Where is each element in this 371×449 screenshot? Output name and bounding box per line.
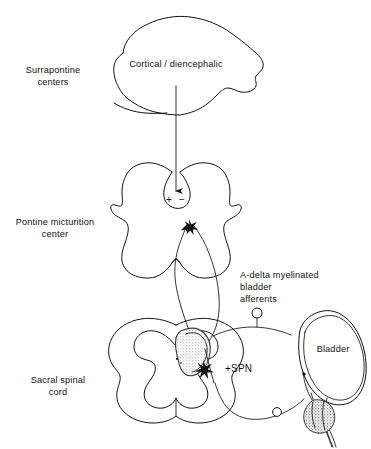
brain-group: Cortical / diencephalic [114, 16, 263, 115]
pons-outline-left [111, 163, 176, 278]
sacral-cord-group: +SPN [109, 318, 253, 423]
afferent-fiber-upper [213, 327, 291, 336]
efferent-ganglion-soma [273, 408, 282, 417]
urethral-sphincter-shaded [304, 400, 335, 433]
micturition-pathway-diagram: Cortical / diencephalic + − [0, 0, 371, 449]
horn-dot-2 [180, 362, 182, 364]
pontine-star-marker [182, 219, 198, 235]
efferent-fiber-lower [215, 383, 304, 419]
afferents-label-line1: A-delta myelinated [240, 270, 319, 280]
pontine-label-line2: center [42, 229, 68, 239]
afferent-ganglion-soma [252, 308, 262, 318]
bladder-group: Bladder [299, 311, 366, 447]
suprapontine-label-line1: Surrapontine [26, 65, 80, 75]
inhibitory-symbol: − [179, 194, 185, 205]
sacral-label-line2: cord [49, 387, 67, 397]
side-label-sacral: Sacral spinal cord [31, 375, 86, 397]
excitatory-symbol: + [166, 194, 172, 205]
afferents-label-line2: bladder [240, 282, 272, 292]
sacral-label-line1: Sacral spinal [31, 375, 86, 385]
diagram-canvas: Cortical / diencephalic + − [0, 0, 371, 449]
brain-inner-fold [114, 103, 167, 113]
horn-dot-1 [176, 358, 178, 360]
afferents-label-line3: afferents [240, 294, 277, 304]
spn-label: +SPN [225, 363, 252, 374]
brain-label: Cortical / diencephalic [129, 59, 223, 69]
side-label-suprapontine: Surrapontine centers [26, 65, 80, 87]
side-label-pontine: Pontine micturition center [16, 217, 94, 239]
afferents-callout-label: A-delta myelinated bladder afferents [240, 270, 319, 304]
bladder-label: Bladder [317, 344, 350, 354]
bladder-neck-junction [302, 372, 305, 375]
suprapontine-label-line2: centers [37, 77, 68, 87]
peripheral-nerve-group [205, 308, 304, 419]
pontine-label-line1: Pontine micturition [16, 217, 94, 227]
